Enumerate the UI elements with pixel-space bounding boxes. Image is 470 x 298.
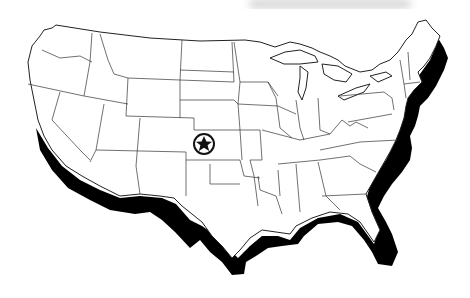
us-map-svg [0, 0, 470, 298]
scan-smudge [250, 0, 410, 8]
star-in-circle-icon [194, 134, 214, 154]
us-map [0, 0, 470, 298]
